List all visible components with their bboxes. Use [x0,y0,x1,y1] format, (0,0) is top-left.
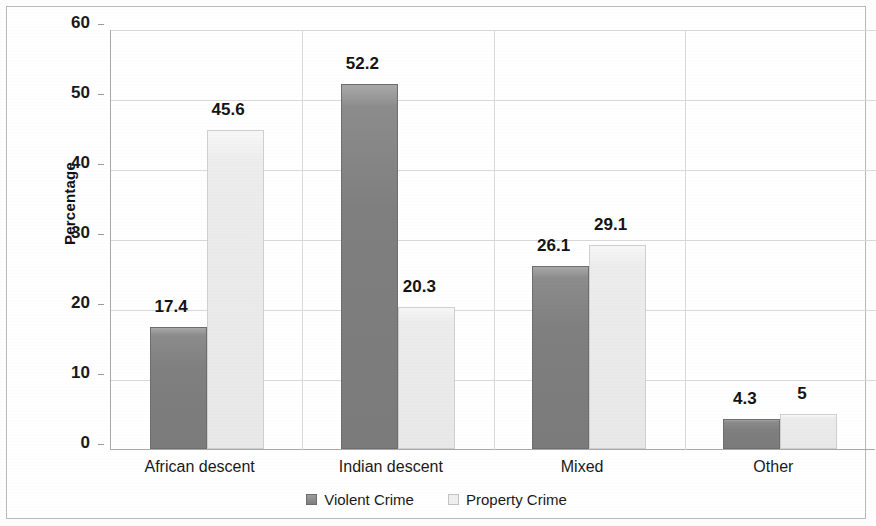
y-tick-label: 0 [7,433,90,453]
bar [150,327,207,449]
x-gridline [302,30,303,450]
y-tick-label: 60 [7,13,90,33]
y-tick-mark [98,374,104,375]
bar [589,245,646,449]
bar-value-label: 20.3 [381,277,458,297]
bar [398,307,455,449]
y-tick-mark [98,234,104,235]
y-tick-mark [98,164,104,165]
legend-swatch-property-icon [448,494,459,505]
y-tick-mark [98,304,104,305]
bar-value-label: 17.4 [133,297,210,317]
bar-value-label: 26.1 [515,236,592,256]
bar-value-label: 52.2 [324,54,401,74]
x-category-label: Other [678,458,869,476]
bar [780,414,837,449]
x-gridline [494,30,495,450]
chart-legend: Violent CrimeProperty Crime [0,491,873,508]
legend-label: Violent Crime [324,491,414,508]
plot-area [110,30,875,450]
y-tick-mark [98,444,104,445]
y-tick-label: 10 [7,363,90,383]
y-tick-label: 30 [7,223,90,243]
x-category-label: Mixed [487,458,678,476]
legend-label: Property Crime [466,491,567,508]
legend-item[interactable]: Property Crime [448,491,567,508]
bar [207,130,264,449]
bar [723,419,780,449]
bar-value-label: 5 [763,384,840,404]
bar [532,266,589,449]
chart-frame: Percentage 0102030405060 African descent… [6,6,866,519]
legend-swatch-violent-icon [306,494,317,505]
bar-value-label: 45.6 [190,100,267,120]
x-category-label: African descent [104,458,295,476]
y-tick-label: 40 [7,153,90,173]
y-tick-label: 20 [7,293,90,313]
legend-item[interactable]: Violent Crime [306,491,414,508]
y-tick-mark [98,94,104,95]
x-category-label: Indian descent [295,458,486,476]
x-gridline [685,30,686,450]
y-tick-mark [98,24,104,25]
bar-value-label: 29.1 [572,215,649,235]
bar [341,84,398,449]
y-tick-label: 50 [7,83,90,103]
